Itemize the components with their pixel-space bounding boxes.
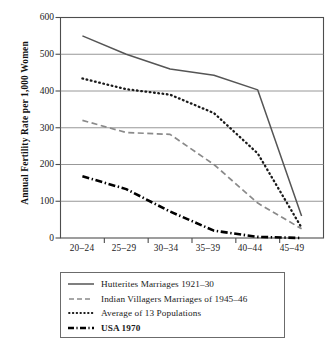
x-axis-tick-labels: 20–24 25–29 30–34 35–39 40–44 45–49 — [0, 243, 333, 259]
legend-label-usa-1970: USA 1970 — [101, 323, 140, 333]
legend-item-average-13: Average of 13 Populations — [67, 306, 284, 321]
legend-line-dashed-icon — [67, 293, 95, 305]
legend-line-dashdot-icon — [67, 322, 95, 334]
x-tick-40-44: 40–44 — [238, 243, 263, 253]
chart-legend: Hutterites Marriages 1921–30 Indian Vill… — [60, 272, 285, 338]
legend-label-hutterites: Hutterites Marriages 1921–30 — [101, 279, 214, 289]
legend-label-average-13: Average of 13 Populations — [101, 308, 201, 318]
y-tick-marks — [56, 18, 61, 239]
plot-area — [0, 0, 333, 260]
legend-item-usa-1970: USA 1970 — [67, 321, 284, 336]
legend-line-solid-icon — [67, 278, 95, 290]
legend-item-indian-villagers: Indian Villagers Marriages of 1945–46 — [67, 292, 284, 307]
legend-line-dotted-icon — [67, 307, 95, 319]
x-tick-20-24: 20–24 — [70, 243, 95, 253]
x-tick-30-34: 30–34 — [154, 243, 179, 253]
legend-item-hutterites: Hutterites Marriages 1921–30 — [67, 277, 284, 292]
x-tick-45-49: 45–49 — [280, 243, 305, 253]
x-tick-35-39: 35–39 — [196, 243, 221, 253]
x-tick-25-29: 25–29 — [112, 243, 137, 253]
legend-label-indian-villagers: Indian Villagers Marriages of 1945–46 — [101, 294, 247, 304]
fertility-rate-chart-figure: Annual Fertility Rate per 1,000 Women 60… — [0, 0, 333, 360]
